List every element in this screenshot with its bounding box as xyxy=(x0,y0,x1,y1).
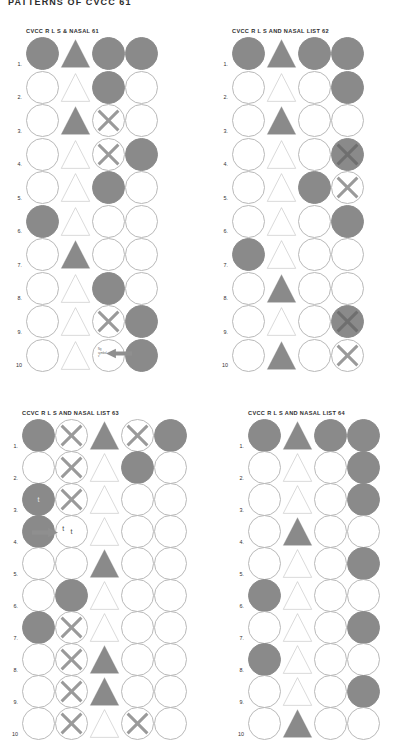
grid-row[interactable]: 7. xyxy=(22,611,187,644)
grid-cell[interactable] xyxy=(298,71,331,104)
grid-cell[interactable] xyxy=(347,643,380,676)
grid-row[interactable]: 10 xyxy=(26,339,158,372)
grid-cell[interactable] xyxy=(281,611,314,644)
grid-cell[interactable] xyxy=(55,547,88,580)
grid-cell[interactable] xyxy=(125,238,158,271)
grid-cell[interactable] xyxy=(88,451,121,484)
grid-cell[interactable] xyxy=(265,272,298,305)
grid-cell[interactable] xyxy=(26,238,59,271)
grid-cell[interactable] xyxy=(22,451,55,484)
grid-cell[interactable] xyxy=(298,272,331,305)
grid-cell[interactable] xyxy=(154,547,187,580)
grid-cell[interactable] xyxy=(281,707,314,740)
grid-cell[interactable] xyxy=(248,707,281,740)
grid-cell[interactable] xyxy=(125,205,158,238)
grid-cell[interactable] xyxy=(26,205,59,238)
grid-cell[interactable] xyxy=(92,71,125,104)
grid-cell[interactable] xyxy=(59,37,92,70)
grid-cell[interactable] xyxy=(347,515,380,548)
grid-row[interactable]: 9. xyxy=(26,305,158,338)
grid-cell[interactable] xyxy=(248,579,281,612)
grid-cell[interactable] xyxy=(22,643,55,676)
grid-row[interactable]: 3.t xyxy=(22,483,187,516)
grid-cell[interactable] xyxy=(154,419,187,452)
grid-cell[interactable] xyxy=(125,104,158,137)
grid-cell[interactable] xyxy=(265,138,298,171)
grid-cell[interactable] xyxy=(281,515,314,548)
grid-row[interactable]: 3. xyxy=(232,104,364,137)
grid-row[interactable]: 1. xyxy=(248,419,380,452)
grid-cell[interactable] xyxy=(265,339,298,372)
grid-cell[interactable] xyxy=(232,104,265,137)
grid-cell[interactable] xyxy=(88,579,121,612)
grid-cell[interactable] xyxy=(88,483,121,516)
grid-cell[interactable] xyxy=(55,419,88,452)
grid-cell[interactable] xyxy=(92,171,125,204)
grid-cell[interactable] xyxy=(88,643,121,676)
grid-row[interactable]: 2. xyxy=(248,451,380,484)
grid-row[interactable]: 3. xyxy=(248,483,380,516)
grid-row[interactable]: 8. xyxy=(26,272,158,305)
grid-cell[interactable] xyxy=(88,675,121,708)
grid-cell[interactable] xyxy=(298,37,331,70)
grid-cell[interactable] xyxy=(55,643,88,676)
grid-cell[interactable] xyxy=(55,707,88,740)
grid-cell[interactable] xyxy=(248,483,281,516)
grid-cell[interactable] xyxy=(298,238,331,271)
grid-cell[interactable] xyxy=(125,171,158,204)
grid-cell[interactable] xyxy=(55,675,88,708)
grid-cell[interactable] xyxy=(55,451,88,484)
grid-cell[interactable] xyxy=(154,611,187,644)
grid-cell[interactable] xyxy=(331,71,364,104)
grid-row[interactable]: 1. xyxy=(232,37,364,70)
grid-row[interactable]: 4. xyxy=(248,515,380,548)
grid-row[interactable]: 2. xyxy=(232,71,364,104)
grid-row[interactable]: 5. xyxy=(26,171,158,204)
grid-cell[interactable] xyxy=(55,483,88,516)
grid-cell[interactable] xyxy=(125,37,158,70)
grid-cell[interactable] xyxy=(331,339,364,372)
grid-cell[interactable] xyxy=(26,339,59,372)
grid-cell[interactable] xyxy=(154,675,187,708)
grid-cell[interactable] xyxy=(88,707,121,740)
grid-cell[interactable] xyxy=(88,419,121,452)
grid-cell[interactable] xyxy=(125,272,158,305)
grid-cell[interactable] xyxy=(55,611,88,644)
grid-row[interactable]: 8. xyxy=(232,272,364,305)
grid-cell[interactable] xyxy=(248,611,281,644)
grid-cell[interactable] xyxy=(22,547,55,580)
grid-cell[interactable] xyxy=(232,305,265,338)
grid-row[interactable]: 6. xyxy=(22,579,187,612)
grid-cell[interactable] xyxy=(154,579,187,612)
grid-cell[interactable] xyxy=(88,547,121,580)
grid-cell[interactable] xyxy=(347,451,380,484)
grid-cell[interactable] xyxy=(265,104,298,137)
grid-cell[interactable] xyxy=(59,272,92,305)
grid-cell[interactable] xyxy=(121,579,154,612)
grid-cell[interactable] xyxy=(281,483,314,516)
grid-cell[interactable] xyxy=(59,238,92,271)
grid-cell[interactable] xyxy=(121,643,154,676)
grid-cell[interactable] xyxy=(232,138,265,171)
grid-cell[interactable] xyxy=(314,611,347,644)
grid-cell[interactable] xyxy=(121,707,154,740)
grid-cell[interactable] xyxy=(125,305,158,338)
grid-cell[interactable] xyxy=(347,675,380,708)
grid-cell[interactable] xyxy=(154,707,187,740)
grid-row[interactable]: 8. xyxy=(22,643,187,676)
grid-cell[interactable] xyxy=(154,643,187,676)
grid-cell[interactable] xyxy=(314,643,347,676)
grid-row[interactable]: 10 xyxy=(232,339,364,372)
grid-row[interactable]: 2. xyxy=(26,71,158,104)
grid-cell[interactable] xyxy=(265,71,298,104)
grid-cell[interactable] xyxy=(22,611,55,644)
grid-cell[interactable] xyxy=(347,419,380,452)
grid-row[interactable]: 10 xyxy=(22,707,187,740)
grid-cell[interactable] xyxy=(298,205,331,238)
grid-cell[interactable] xyxy=(281,547,314,580)
grid-cell[interactable] xyxy=(265,238,298,271)
grid-cell[interactable] xyxy=(22,707,55,740)
grid-cell[interactable] xyxy=(248,451,281,484)
grid-cell[interactable] xyxy=(154,515,187,548)
grid-cell[interactable] xyxy=(347,579,380,612)
